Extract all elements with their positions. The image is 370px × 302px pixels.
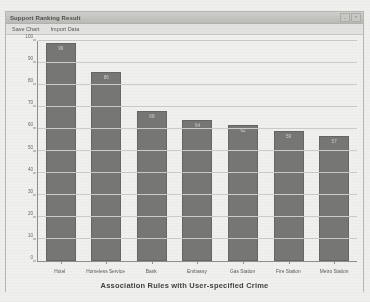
- y-tick-label: 60: [28, 122, 33, 127]
- bar[interactable]: 86: [91, 72, 121, 261]
- chart-canvas: Average Support Count 010203040506070809…: [6, 35, 363, 292]
- x-tick-mark: [243, 261, 244, 264]
- bar-value-label: 57: [320, 139, 348, 144]
- gridline: [38, 40, 357, 41]
- gridline: [38, 106, 357, 107]
- bar-value-label: 68: [138, 114, 166, 119]
- y-axis-ticks: 0102030405060708090100: [22, 41, 36, 262]
- window-titlebar[interactable]: Support Ranking Result _ ×: [6, 12, 363, 24]
- x-tick-mark: [197, 261, 198, 264]
- x-tick-label: Fire Station: [266, 269, 310, 274]
- bar-slot: 62: [228, 41, 258, 261]
- gridline: [38, 172, 357, 173]
- x-tick-mark: [152, 261, 153, 264]
- bar-slot: 57: [319, 41, 349, 261]
- bar-slot: 64: [182, 41, 212, 261]
- bar-value-label: 59: [275, 134, 303, 139]
- gridline: [38, 128, 357, 129]
- gridline: [38, 194, 357, 195]
- x-axis-tick-labels: HotelHomeless ServiceBankEmbassyGas Stat…: [37, 269, 357, 274]
- y-tick-mark: [33, 261, 36, 262]
- x-tick-label: Bank: [129, 269, 173, 274]
- bar-slot: 99: [46, 41, 76, 261]
- x-tick-label: Gas Station: [221, 269, 265, 274]
- plot-area: 99866864625957: [37, 41, 357, 262]
- y-tick-mark: [33, 128, 36, 129]
- y-tick-label: 100: [25, 34, 33, 39]
- y-tick-mark: [33, 238, 36, 239]
- y-tick-label: 80: [28, 78, 33, 83]
- bar[interactable]: 57: [319, 136, 349, 261]
- y-tick-label: 50: [28, 144, 33, 149]
- x-tick-label: Homeless Service: [84, 269, 128, 274]
- minimize-icon[interactable]: _: [340, 13, 350, 22]
- gridline: [38, 84, 357, 85]
- bar-value-label: 99: [47, 46, 75, 51]
- bar[interactable]: 99: [46, 43, 76, 261]
- y-tick-mark: [33, 150, 36, 151]
- window-title: Support Ranking Result: [10, 15, 340, 21]
- x-tick-mark: [289, 261, 290, 264]
- gridline: [38, 216, 357, 217]
- y-tick-label: 70: [28, 100, 33, 105]
- bar-slot: 59: [274, 41, 304, 261]
- bar[interactable]: 62: [228, 125, 258, 261]
- y-tick-label: 30: [28, 188, 33, 193]
- bar-value-label: 86: [92, 75, 120, 80]
- gridline: [38, 238, 357, 239]
- window-controls: _ ×: [340, 13, 361, 22]
- x-tick-label: Metro Station: [312, 269, 356, 274]
- bar[interactable]: 64: [182, 120, 212, 261]
- gridline: [38, 62, 357, 63]
- y-tick-mark: [33, 84, 36, 85]
- plot-region: 0102030405060708090100 99866864625957: [22, 41, 357, 262]
- bar-slot: 86: [91, 41, 121, 261]
- close-icon[interactable]: ×: [351, 13, 361, 22]
- screenshot-root: Support Ranking Result _ × Save Chart Im…: [0, 0, 370, 302]
- y-tick-mark: [33, 172, 36, 173]
- x-tick-label: Embassy: [175, 269, 219, 274]
- x-tick-mark: [106, 261, 107, 264]
- bar-slot: 68: [137, 41, 167, 261]
- menu-item-save-chart[interactable]: Save Chart: [12, 26, 40, 32]
- y-tick-label: 0: [30, 255, 33, 260]
- bar-series: 99866864625957: [38, 41, 357, 261]
- y-tick-label: 40: [28, 166, 33, 171]
- y-tick-mark: [33, 216, 36, 217]
- menu-item-import-data[interactable]: Import Data: [51, 26, 80, 32]
- x-tick-mark: [61, 261, 62, 264]
- menu-bar: Save Chart Import Data: [6, 24, 363, 35]
- application-window: Support Ranking Result _ × Save Chart Im…: [5, 11, 364, 292]
- y-tick-label: 10: [28, 232, 33, 237]
- x-axis-title: Association Rules with User-specified Cr…: [6, 281, 363, 290]
- x-tick-label: Hotel: [38, 269, 82, 274]
- y-tick-label: 90: [28, 56, 33, 61]
- y-tick-mark: [33, 106, 36, 107]
- gridline: [38, 150, 357, 151]
- y-tick-mark: [33, 62, 36, 63]
- x-tick-mark: [334, 261, 335, 264]
- y-tick-mark: [33, 194, 36, 195]
- y-tick-mark: [33, 40, 36, 41]
- y-tick-label: 20: [28, 210, 33, 215]
